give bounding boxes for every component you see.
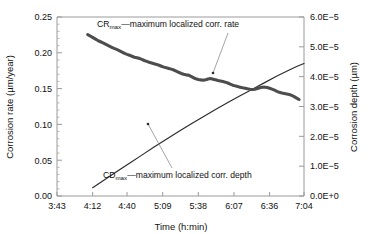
tick-label: 6.0E−5: [310, 12, 339, 22]
tick-label: 0.10: [34, 120, 52, 130]
y2-axis-title: Corrosion depth (µm): [348, 62, 359, 152]
cr-annotation: CRmax—maximum localized corr. rate: [97, 19, 239, 74]
cr-annotation-subscript: max: [109, 23, 122, 30]
cd-annotation-prefix: CD: [103, 170, 115, 180]
cr-annotation-label: CRmax—maximum localized corr. rate: [97, 19, 239, 30]
tick-label: 3:43: [48, 201, 66, 211]
tick-label: 0.20: [34, 48, 52, 58]
x-axis-ticks: [57, 192, 304, 196]
left-axis-tick-labels: 0.000.050.100.150.200.25: [34, 12, 52, 201]
tick-label: 1.0E−5: [310, 161, 339, 171]
tick-label: 6:36: [261, 201, 279, 211]
x-axis-title: Time (h:min): [155, 221, 208, 232]
right-axis-ticks: [299, 17, 304, 196]
tick-label: 5:09: [154, 201, 172, 211]
corrosion-rate-series: [88, 35, 299, 100]
tick-label: 2.0E−5: [310, 132, 339, 142]
tick-label: 4.0E−5: [310, 72, 339, 82]
tick-label: 0.0E+0: [310, 191, 339, 201]
cd-leader-line: [148, 124, 172, 168]
chart-figure: 0.000.050.100.150.200.25 0.0E+01.0E−52.0…: [0, 0, 368, 234]
cd-leader-dot: [147, 123, 150, 126]
cr-annotation-text: —maximum localized corr. rate: [121, 19, 239, 29]
tick-label: 0.00: [34, 191, 52, 201]
cd-annotation-label: CDmax—maximum localized corr. depth: [103, 170, 252, 181]
tick-label: 7:04: [295, 201, 313, 211]
cd-annotation-subscript: max: [115, 174, 128, 181]
tick-label: 0.15: [34, 84, 52, 94]
cd-annotation: CDmax—maximum localized corr. depth: [103, 123, 252, 182]
cd-annotation-text: —maximum localized corr. depth: [127, 170, 252, 180]
tick-label: 5:38: [190, 201, 208, 211]
tick-label: 5.0E−5: [310, 42, 339, 52]
tick-label: 3.0E−5: [310, 102, 339, 112]
x-axis-tick-labels: 3:434:124:405:095:386:076:367:04: [48, 201, 313, 211]
tick-label: 0.05: [34, 156, 52, 166]
cr-leader-line: [213, 33, 228, 73]
tick-label: 6:07: [225, 201, 243, 211]
corrosion-chart: 0.000.050.100.150.200.25 0.0E+01.0E−52.0…: [0, 0, 368, 234]
tick-label: 0.25: [34, 12, 52, 22]
cr-leader-dot: [212, 72, 215, 75]
tick-label: 4:40: [118, 201, 136, 211]
tick-label: 4:12: [84, 201, 102, 211]
left-axis-ticks: [57, 17, 62, 196]
y-axis-title: Corrosion rate (µm/year): [4, 55, 15, 159]
right-axis-tick-labels: 0.0E+01.0E−52.0E−53.0E−54.0E−55.0E−56.0E…: [310, 12, 339, 201]
cr-annotation-prefix: CR: [97, 19, 109, 29]
